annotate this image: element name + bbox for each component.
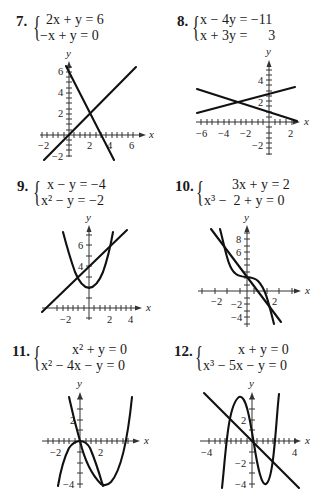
svg-text:−4: −4 <box>235 479 247 490</box>
svg-text:2: 2 <box>241 415 246 426</box>
svg-text:4: 4 <box>292 447 298 458</box>
x-axis-label: x <box>304 434 310 446</box>
y-axis-label: y <box>248 377 254 389</box>
svg-text:−2: −2 <box>235 458 246 469</box>
svg-text:−4: −4 <box>201 447 213 458</box>
graph-12: x y −44 2−2 −4 <box>0 0 324 504</box>
